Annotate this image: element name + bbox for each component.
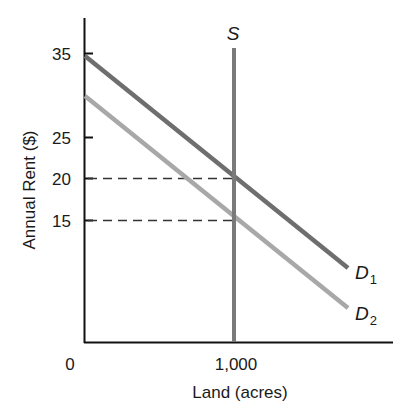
demand-curve-d2 [85, 96, 348, 308]
d1-label: D1 [355, 262, 377, 287]
x-axis-title: Land (acres) [192, 383, 287, 402]
y-tick-label-25: 25 [52, 129, 71, 148]
demand-curve-d1 [85, 56, 348, 268]
x-tick-label-1000: 1,000 [215, 355, 258, 374]
y-tick-label-35: 35 [52, 45, 71, 64]
y-tick-label-20: 20 [52, 170, 71, 189]
supply-label: S [227, 23, 240, 44]
y-tick-label-15: 15 [52, 212, 71, 231]
d2-label: D2 [355, 303, 377, 328]
rent-chart: 35 25 20 15 0 1,000 Land (acres) Annual … [0, 0, 404, 415]
origin-label: 0 [65, 355, 74, 374]
y-axis-title: Annual Rent ($) [20, 130, 39, 249]
